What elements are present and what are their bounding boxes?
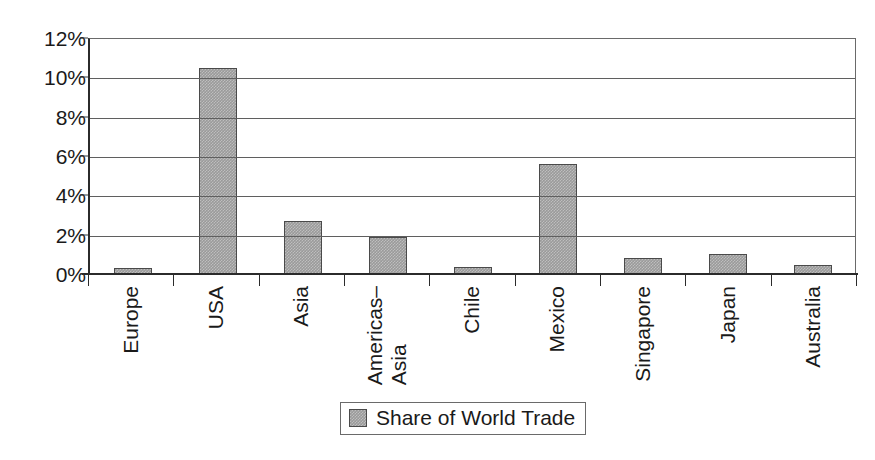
x-axis-label-slot: Americas–Asia: [344, 286, 429, 396]
legend-swatch-icon: [349, 409, 367, 427]
bar[interactable]: [284, 221, 322, 274]
gridline: [90, 196, 855, 197]
x-axis-label-slot: Singapore: [600, 286, 685, 396]
x-axis-label: Mexico: [546, 286, 568, 353]
y-axis-tick-label: 4%: [12, 185, 86, 206]
x-axis-label: Japan: [717, 286, 739, 343]
x-axis-ticks: [88, 274, 856, 286]
x-axis-label-line: Americas–: [364, 286, 386, 385]
plot-area: [88, 38, 856, 274]
x-axis-label: Australia: [802, 286, 824, 368]
y-axis-tick-label: 8%: [12, 106, 86, 127]
y-axis: 0%2%4%6%8%10%12%: [0, 0, 86, 460]
y-axis-tick-label: 2%: [12, 224, 86, 245]
y-axis-tick-mark: [80, 234, 88, 235]
x-axis-tick-mark: [429, 274, 430, 286]
x-axis-tick-mark: [88, 274, 89, 286]
y-axis-tick-mark: [80, 77, 88, 78]
x-axis-tick-mark: [600, 274, 601, 286]
bar[interactable]: [369, 237, 407, 274]
x-axis-tick-mark: [771, 274, 772, 286]
x-axis-label-slot: Australia: [771, 286, 856, 396]
x-axis-tick-mark: [344, 274, 345, 286]
x-axis-tick-mark: [173, 274, 174, 286]
x-axis-label-slot: Asia: [259, 286, 344, 396]
x-axis-tick-mark: [685, 274, 686, 286]
x-axis-tick-mark: [515, 274, 516, 286]
y-axis-tick-mark: [80, 156, 88, 157]
bar[interactable]: [539, 164, 577, 274]
bar-chart: 0%2%4%6%8%10%12% EuropeUSAAsiaAmericas–A…: [0, 0, 875, 460]
bar[interactable]: [624, 258, 662, 274]
gridline: [90, 236, 855, 237]
y-axis-tick-mark: [80, 38, 88, 39]
x-axis-label-slot: Europe: [88, 286, 173, 396]
bar[interactable]: [199, 68, 237, 275]
x-axis-tick-mark: [856, 274, 857, 286]
y-axis-tick-label: 12%: [12, 28, 86, 49]
x-axis-label-slot: Chile: [429, 286, 514, 396]
x-axis-label: Singapore: [632, 286, 654, 382]
gridline: [90, 157, 855, 158]
bar[interactable]: [709, 254, 747, 274]
x-axis-labels: EuropeUSAAsiaAmericas–AsiaChileMexicoSin…: [88, 286, 856, 396]
x-axis-label-slot: Mexico: [515, 286, 600, 396]
x-axis-label: Europe: [120, 286, 142, 354]
x-axis-label-slot: Japan: [685, 286, 770, 396]
x-axis-tick-mark: [259, 274, 260, 286]
x-axis-label-line: Asia: [388, 286, 410, 385]
y-axis-tick-label: 6%: [12, 146, 86, 167]
y-axis-tick-mark: [80, 195, 88, 196]
y-axis-tick-label: 10%: [12, 67, 86, 88]
gridline: [90, 118, 855, 119]
legend-label: Share of World Trade: [376, 407, 575, 429]
gridline: [90, 78, 855, 79]
x-axis-label: Americas–Asia: [364, 286, 410, 385]
y-axis-tick-label: 0%: [12, 264, 86, 285]
x-axis-label: Chile: [461, 286, 483, 334]
chart-legend: Share of World Trade: [340, 402, 586, 435]
x-axis-label: USA: [205, 286, 227, 329]
x-axis-label: Asia: [290, 286, 312, 327]
x-axis-label-slot: USA: [173, 286, 258, 396]
y-axis-tick-mark: [80, 116, 88, 117]
